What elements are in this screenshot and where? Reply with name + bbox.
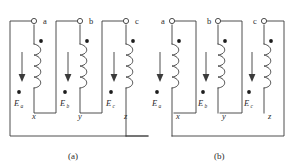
- coil-a: [34, 44, 41, 88]
- figure-root: a b c E a E b E c x y z: [0, 0, 290, 166]
- caption-a: (a): [68, 151, 78, 161]
- emf-label-c-base: E: [105, 98, 112, 108]
- wire-y-to-c: [80, 21, 126, 113]
- emf-label-b-base: E: [59, 98, 66, 108]
- emf-label-b-panel-b: E b: [197, 98, 208, 109]
- dot-coil-c-top: [131, 39, 135, 43]
- terminal-label-b: b: [89, 16, 93, 26]
- arrow-b-panel-b: [203, 52, 210, 82]
- terminal-label-c: c: [135, 16, 139, 26]
- emf-label-c-sub: c: [113, 103, 116, 109]
- emf-label-a-base: E: [13, 98, 20, 108]
- terminal-label-a: a: [43, 16, 47, 26]
- lower-terminal-label-y: y: [77, 111, 82, 121]
- dot-emf-c-panel-b: [247, 90, 251, 94]
- terminal-ring-c[interactable]: [123, 18, 128, 23]
- terminal-ring-b-panel-b[interactable]: [215, 18, 220, 23]
- coil-c: [126, 44, 133, 88]
- dot-emf-b: [63, 90, 67, 94]
- terminal-label-c-panel-b: c: [253, 16, 257, 26]
- lower-terminal-label-x: x: [31, 111, 36, 121]
- emf-label-b: E b: [59, 98, 70, 109]
- terminal-label-b-panel-b: b: [207, 16, 211, 26]
- terminal-ring-c-panel-b[interactable]: [261, 18, 266, 23]
- dot-coil-c-top-panel-b: [269, 39, 273, 43]
- emf-label-b-sub: b: [67, 103, 70, 109]
- emf-label-c-panel-b: E c: [243, 98, 254, 109]
- panel-a-group: a b c E a E b E c x y z: [10, 16, 148, 136]
- terminal-ring-a-panel-b[interactable]: [169, 18, 174, 23]
- lower-terminal-label-y-panel-b: y: [221, 111, 226, 121]
- coil-a-panel-b: [172, 44, 179, 88]
- dot-emf-c: [109, 90, 113, 94]
- lower-terminal-label-x-panel-b: x: [175, 111, 180, 121]
- dot-emf-b-panel-b: [201, 90, 205, 94]
- dot-coil-b-top-panel-b: [223, 39, 227, 43]
- terminal-ring-b[interactable]: [77, 18, 82, 23]
- arrow-a-panel-b: [157, 52, 164, 82]
- emf-label-a-base-panel-b: E: [151, 98, 158, 108]
- emf-label-c-base-panel-b: E: [243, 98, 250, 108]
- dot-coil-a-top: [39, 39, 43, 43]
- dot-coil-a-top-panel-b: [177, 39, 181, 43]
- emf-label-a-sub-panel-b: a: [159, 103, 162, 109]
- dot-emf-a: [17, 90, 21, 94]
- terminal-label-a-panel-b: a: [161, 16, 165, 26]
- emf-label-b-sub-panel-b: b: [205, 103, 208, 109]
- wire-x-to-b: [34, 21, 80, 113]
- dot-coil-b-top: [85, 39, 89, 43]
- panel-b-group: a b c E a E b E c x y z: [151, 16, 284, 136]
- lower-terminal-label-z: z: [123, 111, 128, 121]
- arrow-c: [111, 52, 118, 82]
- emf-label-a-panel-b: E a: [151, 98, 162, 109]
- arrow-a: [19, 52, 26, 82]
- circuit-diagram-svg: a b c E a E b E c x y z: [0, 0, 290, 166]
- emf-label-a: E a: [13, 98, 24, 109]
- coil-b-panel-b: [218, 44, 225, 88]
- arrow-c-panel-b: [249, 52, 256, 82]
- arrow-b: [65, 52, 72, 82]
- lower-terminal-label-z-panel-b: z: [267, 111, 272, 121]
- dot-emf-a-panel-b: [155, 90, 159, 94]
- emf-label-c: E c: [105, 98, 116, 109]
- terminal-ring-a[interactable]: [31, 18, 36, 23]
- caption-b: (b): [214, 151, 225, 161]
- coil-c-panel-b: [264, 44, 271, 88]
- emf-label-c-sub-panel-b: c: [251, 103, 254, 109]
- emf-label-a-sub: a: [21, 103, 24, 109]
- coil-b: [80, 44, 87, 88]
- emf-label-b-base-panel-b: E: [197, 98, 204, 108]
